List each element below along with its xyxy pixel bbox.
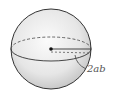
sphere-diagram: 2ab bbox=[0, 0, 117, 96]
dimension-label: 2ab bbox=[87, 64, 106, 74]
center-point bbox=[49, 47, 53, 51]
sphere-graphic bbox=[0, 0, 117, 96]
